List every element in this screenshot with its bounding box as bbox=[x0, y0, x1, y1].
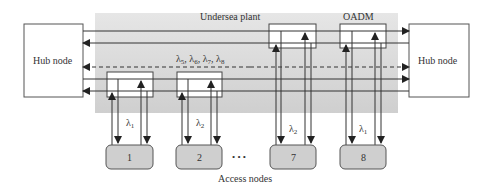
hub-node-right-label: Hub node bbox=[418, 55, 458, 66]
wavelength-label-node-1: λ1 bbox=[126, 117, 135, 130]
wavelength-label-node-8: λ1 bbox=[359, 123, 368, 136]
undersea-network-diagram: Undersea plant OADM Hub node Hub node λ5… bbox=[0, 0, 492, 193]
hub-node-right: Hub node bbox=[409, 24, 469, 97]
access-node-7: 7 bbox=[270, 145, 316, 169]
access-node-7-label: 7 bbox=[291, 152, 296, 163]
access-node-2: 2 bbox=[176, 145, 222, 169]
access-node-8-label: 8 bbox=[361, 152, 366, 163]
access-nodes-label: Access nodes bbox=[218, 173, 272, 184]
hub-node-left: Hub node bbox=[24, 24, 83, 97]
oadm-label: OADM bbox=[343, 11, 374, 22]
ellipsis: • • • bbox=[232, 152, 246, 162]
oadm-box-7 bbox=[269, 24, 316, 48]
access-node-1: 1 bbox=[106, 145, 153, 169]
wavelength-label-node-7: λ2 bbox=[289, 123, 298, 136]
access-node-2-label: 2 bbox=[197, 152, 202, 163]
access-node-8: 8 bbox=[340, 145, 386, 169]
oadm-box-2 bbox=[177, 72, 222, 97]
oadm-box-8 bbox=[340, 24, 386, 48]
undersea-plant-label: Undersea plant bbox=[200, 11, 260, 22]
oadm-box-1 bbox=[107, 72, 153, 97]
access-node-1-label: 1 bbox=[127, 152, 132, 163]
hub-node-left-label: Hub node bbox=[33, 55, 73, 66]
wavelength-label-node-2: λ2 bbox=[196, 117, 205, 130]
